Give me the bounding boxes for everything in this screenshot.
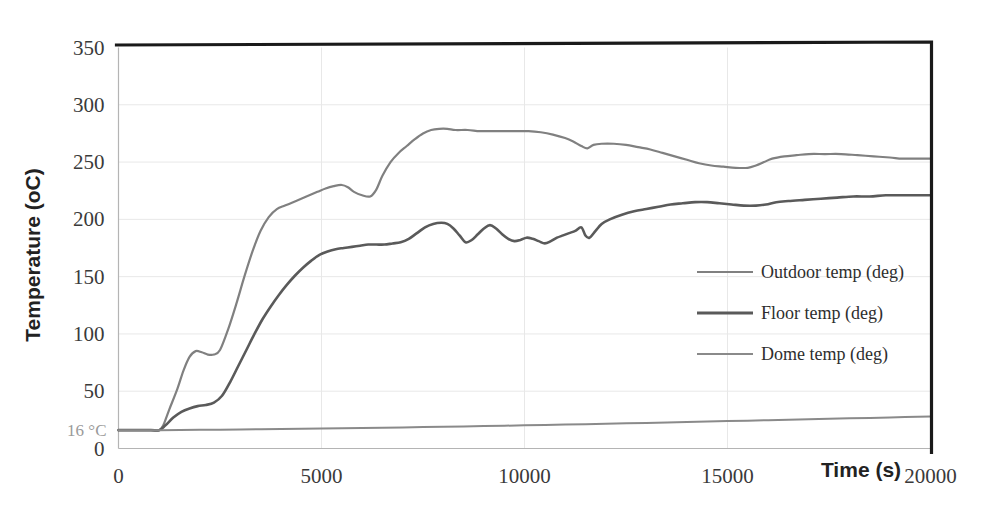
y-tick-label: 250 <box>73 150 105 174</box>
x-tick-label: 0 <box>113 464 124 488</box>
y-tick-label: 50 <box>84 379 105 403</box>
chart-svg: 050100150200250300350 050001000015000200… <box>0 0 988 522</box>
y-axis-title: Temperature (oC) <box>21 168 44 341</box>
x-axis-title: Time (s) <box>821 458 901 481</box>
legend-label: Floor temp (deg) <box>761 303 883 324</box>
y-tick-labels-group: 050100150200250300350 <box>73 36 105 461</box>
gridlines-group <box>119 48 931 449</box>
y-tick-label: 350 <box>73 36 105 60</box>
temperature-line-chart: 050100150200250300350 050001000015000200… <box>0 0 988 522</box>
y-tick-label: 100 <box>73 322 105 346</box>
annotation-label: 16 °C <box>67 421 106 440</box>
x-tick-label: 10000 <box>498 464 551 488</box>
y-tick-label: 150 <box>73 265 105 289</box>
legend-label: Dome temp (deg) <box>761 344 888 365</box>
legend-group: Outdoor temp (deg)Floor temp (deg)Dome t… <box>697 262 904 365</box>
y-tick-label: 300 <box>73 93 105 117</box>
x-tick-label: 5000 <box>301 464 343 488</box>
y-tick-label: 200 <box>73 207 105 231</box>
annotations-group: 16 °C <box>67 421 106 440</box>
legend-label: Outdoor temp (deg) <box>761 262 904 283</box>
x-tick-label: 20000 <box>904 464 957 488</box>
x-tick-label: 15000 <box>701 464 754 488</box>
